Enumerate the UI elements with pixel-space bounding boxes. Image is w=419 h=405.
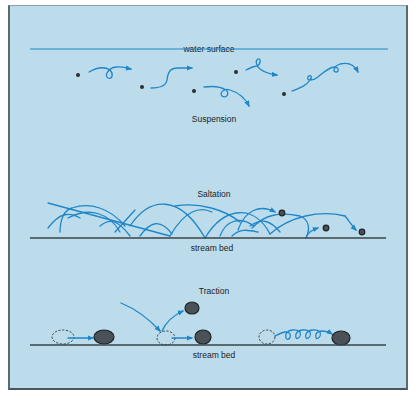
impacting-grain-path <box>121 303 160 331</box>
saltation-section: Saltation stream bed <box>30 189 386 253</box>
launched-grain <box>185 302 199 314</box>
traction-label: Traction <box>199 286 230 296</box>
initial-position-outline <box>259 330 275 344</box>
saltation-trajectories <box>48 203 356 238</box>
suspension-path <box>89 67 131 79</box>
suspended-particle <box>234 70 238 74</box>
suspended-particle <box>140 85 144 89</box>
stream-bed-label: stream bed <box>193 350 236 360</box>
suspension-path <box>151 68 192 88</box>
suspension-path <box>204 86 249 106</box>
saltating-grain <box>279 210 285 216</box>
suspension-label: Suspension <box>192 114 237 124</box>
saltating-grain <box>323 225 329 231</box>
suspended-particle <box>192 89 196 93</box>
sediment-transport-diagram: water surface Suspension Saltation <box>0 0 419 405</box>
suspension-path <box>292 63 358 91</box>
stream-bed-label: stream bed <box>191 243 234 253</box>
suspended-particle <box>282 92 286 96</box>
saltation-label: Saltation <box>197 189 230 199</box>
suspended-particle <box>76 73 80 77</box>
pushed-grain <box>195 330 211 344</box>
launched-grain-path <box>162 311 183 331</box>
traction-section: Traction stream bed <box>30 286 386 360</box>
rolling-grain <box>332 331 350 345</box>
initial-position-outline <box>52 330 74 344</box>
sliding-grain <box>94 330 114 344</box>
suspension-path <box>246 59 277 75</box>
rolling-path <box>275 330 332 339</box>
saltating-grain <box>359 229 365 235</box>
suspension-section: water surface Suspension <box>30 44 388 124</box>
